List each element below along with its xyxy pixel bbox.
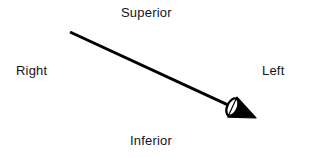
- axis-label-left: Left: [262, 64, 284, 77]
- axis-label-superior: Superior: [121, 6, 172, 19]
- arrow-shaft: [70, 32, 241, 111]
- axis-label-inferior: Inferior: [130, 134, 172, 147]
- anatomical-orientation-diagram: Superior Right Left Inferior: [0, 0, 310, 157]
- axis-label-right: Right: [16, 64, 47, 77]
- arrow-head-group: [224, 97, 256, 118]
